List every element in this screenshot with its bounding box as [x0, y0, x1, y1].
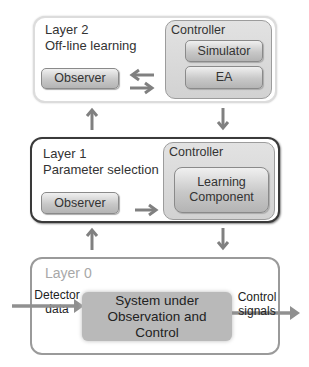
system-line1: System under	[115, 293, 198, 309]
ea-box: EA	[185, 66, 263, 89]
control-signals-label: Control signals	[234, 290, 280, 318]
learning-component-line2: Component	[189, 190, 254, 205]
layer1-subtitle: Parameter selection	[43, 162, 159, 177]
down-arrow-icon	[218, 228, 228, 250]
layer1-title: Layer 1	[43, 146, 86, 161]
learning-component-line1: Learning	[197, 175, 246, 190]
up-arrow-icon	[87, 228, 97, 250]
bidirectional-arrow-icon	[128, 70, 158, 94]
layer2-observer-label: Observer	[54, 71, 105, 86]
system-line3: Control	[135, 325, 179, 341]
layer2-title: Layer 2	[45, 22, 88, 37]
layer1-observer-label: Observer	[54, 196, 105, 211]
layer0-title: Layer 0	[45, 266, 92, 281]
layer2-subtitle: Off-line learning	[45, 38, 137, 53]
control-signals-line2: signals	[234, 304, 280, 318]
down-arrow-icon	[218, 108, 228, 130]
input-arrow-icon	[12, 299, 84, 313]
control-signals-line1: Control	[234, 290, 280, 304]
system-line2: Observation and	[107, 309, 206, 325]
layer1-controller-label: Controller	[169, 145, 223, 159]
layer2-controller-label: Controller	[171, 23, 225, 37]
learning-component-box: Learning Component	[174, 167, 269, 213]
up-arrow-icon	[87, 108, 97, 130]
system-under-observation-box: System under Observation and Control	[82, 292, 232, 341]
layer1-observer: Observer	[41, 192, 119, 214]
simulator-box: Simulator	[185, 40, 263, 62]
right-arrow-icon	[135, 204, 159, 216]
layer2-observer: Observer	[41, 68, 119, 89]
ea-label: EA	[216, 70, 233, 85]
simulator-label: Simulator	[198, 44, 251, 59]
